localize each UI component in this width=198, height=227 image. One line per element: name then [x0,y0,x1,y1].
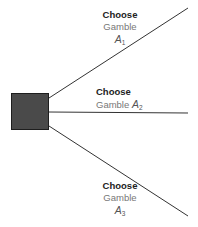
gamble-text: Gamble [96,21,144,33]
branch-label-3: Choose Gamble A3 [96,180,144,220]
choose-text: Choose [96,9,144,21]
choose-text: Choose [96,86,176,98]
choose-text: Choose [96,180,144,192]
gamble-line: Gamble A2 [96,98,176,114]
gamble-symbol: A1 [96,33,144,49]
decision-node [11,93,49,130]
gamble-symbol: A3 [96,204,144,220]
branch-label-2: Choose Gamble A2 [96,86,176,114]
gamble-text: Gamble [96,192,144,204]
branch-label-1: Choose Gamble A1 [96,9,144,49]
